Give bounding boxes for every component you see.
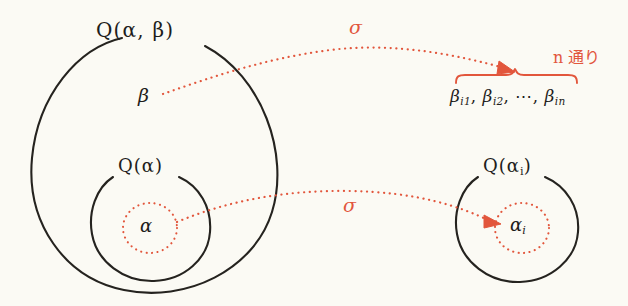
alpha-i-subscript: i: [522, 224, 526, 237]
alpha-i-base: α: [510, 214, 522, 235]
beta-list-ellipsis: ⋯: [515, 86, 533, 106]
beta-conjugate-n-base: β: [545, 86, 555, 106]
image-field-label: Q(αi): [483, 157, 532, 177]
beta-conjugate-2: βi2: [483, 86, 504, 106]
beta-conjugate-1: βi1: [450, 86, 471, 106]
beta-conjugate-n: βin: [545, 86, 566, 106]
beta-list-separator-1: ,: [471, 86, 477, 106]
outer-field-label: Q(α, β): [96, 20, 174, 40]
beta-list-separator-3: ,: [533, 86, 539, 106]
sigma-top-label: σ: [349, 18, 362, 37]
n-ways-label: n 通り: [553, 50, 600, 66]
beta-conjugate-n-subscript: in: [555, 95, 566, 107]
beta-conjugate-1-base: β: [450, 86, 460, 106]
beta-list-separator-2: ,: [503, 86, 509, 106]
alpha-i-element-label: αi: [510, 216, 526, 236]
diagram-vector-layer: [0, 0, 628, 306]
beta-conjugate-1-subscript: i1: [460, 95, 470, 107]
beta-conjugate-2-base: β: [483, 86, 493, 106]
n-ways-brace: [456, 69, 577, 83]
beta-element-label: β: [138, 86, 149, 105]
diagram-canvas: Q(α, β) β Q(α) α Q(αi) αi σ σ n 通り βi1, …: [0, 0, 628, 306]
sigma-bottom-arrow-path: [177, 191, 492, 222]
image-field-label-base: Q(α: [483, 155, 520, 176]
alpha-element-label: α: [140, 217, 152, 235]
beta-conjugates-list: βi1, βi2, ⋯, βin: [450, 88, 565, 106]
inner-field-label: Q(α): [118, 157, 163, 175]
beta-conjugate-2-subscript: i2: [493, 95, 503, 107]
image-field-label-close: ): [524, 155, 532, 176]
sigma-bottom-label: σ: [343, 196, 356, 215]
